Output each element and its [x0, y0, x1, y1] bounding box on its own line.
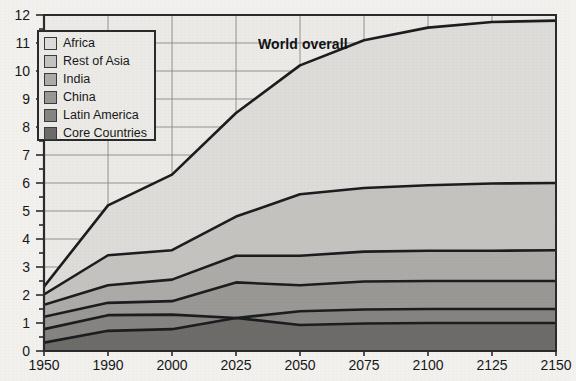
legend-item[interactable]: China: [44, 89, 154, 106]
y-axis-tick-label: 8: [4, 120, 30, 134]
legend-item[interactable]: Latin America: [44, 107, 154, 124]
legend-item[interactable]: Core Countries: [44, 125, 154, 142]
y-axis-tick-label: 3: [4, 260, 30, 274]
legend-swatch-icon: [44, 37, 57, 50]
legend-item[interactable]: India: [44, 71, 154, 88]
x-axis-tick-label: 1990: [78, 358, 138, 373]
y-axis-tick-label: 5: [4, 204, 30, 218]
x-axis-tick-label: 1950: [14, 358, 74, 373]
x-axis-tick-label: 2150: [526, 358, 576, 373]
y-axis-tick-label: 7: [4, 148, 30, 162]
x-axis-tick-label: 2075: [334, 358, 394, 373]
y-axis-tick-label: 2: [4, 288, 30, 302]
world-overall-annotation: World overall: [258, 36, 348, 52]
y-axis-tick-label: 0: [4, 344, 30, 358]
legend-swatch-icon: [44, 127, 57, 140]
y-axis-tick-label: 1: [4, 316, 30, 330]
legend-item-label: Rest of Asia: [63, 55, 130, 68]
x-axis-tick-label: 2100: [398, 358, 458, 373]
legend-item-label: Latin America: [63, 109, 139, 122]
legend-item-label: Core Countries: [63, 127, 147, 140]
legend-item-label: India: [63, 73, 90, 86]
x-axis-tick-label: 2025: [206, 358, 266, 373]
legend-swatch-icon: [44, 55, 57, 68]
legend-item-label: China: [63, 91, 96, 104]
y-axis-tick-label: 4: [4, 232, 30, 246]
legend-item[interactable]: Rest of Asia: [44, 53, 154, 70]
legend-item[interactable]: Africa: [44, 35, 154, 52]
y-axis-tick-label: 12: [4, 8, 30, 22]
legend-item-label: Africa: [63, 37, 95, 50]
chart-legend: AfricaRest of AsiaIndiaChinaLatin Americ…: [37, 30, 156, 141]
legend-swatch-icon: [44, 73, 57, 86]
x-axis-tick-label: 2050: [270, 358, 330, 373]
y-axis-tick-label: 11: [4, 36, 30, 50]
y-axis-tick-label: 6: [4, 176, 30, 190]
legend-swatch-icon: [44, 91, 57, 104]
x-axis-tick-label: 2000: [142, 358, 202, 373]
y-axis-tick-label: 9: [4, 92, 30, 106]
y-axis-tick-label: 10: [4, 64, 30, 78]
x-axis-tick-label: 2125: [462, 358, 522, 373]
legend-swatch-icon: [44, 109, 57, 122]
